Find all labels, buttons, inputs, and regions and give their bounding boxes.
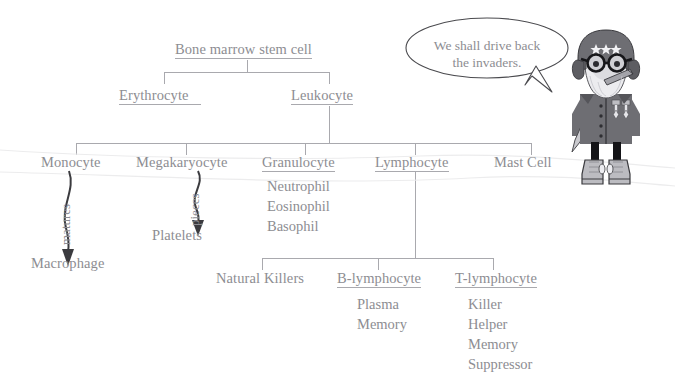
- arrow-label-matures: matures: [58, 204, 74, 245]
- node-granulocyte[interactable]: Granulocyte: [262, 155, 335, 172]
- node-natural-killers[interactable]: Natural Killers: [216, 271, 304, 286]
- node-leukocyte[interactable]: Leukocyte: [291, 88, 353, 105]
- diagram-canvas: We shall drive back the invaders.: [0, 0, 675, 392]
- b-lymphocyte-type-list: Plasma Memory: [357, 294, 407, 334]
- boots: [582, 160, 630, 184]
- list-item-memory: Memory: [357, 314, 407, 334]
- node-erythrocyte[interactable]: Erythrocyte: [119, 88, 201, 105]
- list-item-plasma: Plasma: [357, 294, 407, 314]
- list-item-killer: Killer: [468, 294, 532, 314]
- node-megakaryocyte[interactable]: Megakaryocyte: [136, 155, 227, 170]
- list-item-eosinophil: Eosinophil: [267, 196, 330, 216]
- eye-right: [614, 61, 620, 67]
- node-mast-cell[interactable]: Mast Cell: [494, 155, 552, 170]
- node-bone-marrow-stem-cell[interactable]: Bone marrow stem cell: [175, 42, 312, 59]
- node-b-lymphocyte[interactable]: B-lymphocyte: [337, 271, 421, 288]
- character-general: [0, 0, 675, 392]
- node-lymphocyte[interactable]: Lymphocyte: [375, 155, 449, 172]
- node-macrophage[interactable]: Macrophage: [31, 256, 104, 271]
- node-platelets[interactable]: Platelets: [152, 228, 202, 243]
- list-item-basophil: Basophil: [267, 216, 330, 236]
- list-item-neutrophil: Neutrophil: [267, 176, 330, 196]
- list-item-suppressor: Suppressor: [468, 354, 532, 374]
- list-item-memory-t: Memory: [468, 334, 532, 354]
- node-monocyte[interactable]: Monocyte: [41, 155, 101, 170]
- granulocyte-type-list: Neutrophil Eosinophil Basophil: [267, 176, 330, 236]
- node-t-lymphocyte[interactable]: T-lymphocyte: [455, 271, 537, 288]
- arrow-label-pieces: pieces: [187, 194, 203, 226]
- list-item-helper: Helper: [468, 314, 532, 334]
- t-lymphocyte-type-list: Killer Helper Memory Suppressor: [468, 294, 532, 374]
- eye-left: [593, 61, 599, 67]
